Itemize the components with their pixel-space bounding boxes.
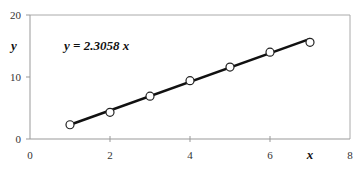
x-tick-label: 4 [187, 149, 193, 161]
y-tick-label: 20 [10, 9, 22, 21]
x-axis-title: x [306, 147, 314, 162]
data-point [146, 92, 154, 100]
x-tick-label: 0 [27, 149, 33, 161]
chart: 0 10 20 0 2 4 6 8 y x y = 2.3058 x [0, 0, 363, 171]
data-point [186, 77, 194, 85]
data-point [306, 38, 314, 46]
data-point [226, 63, 234, 71]
y-tick-label: 10 [10, 71, 22, 83]
data-point [106, 108, 114, 116]
data-point [266, 48, 274, 56]
y-tick-label: 0 [16, 133, 22, 145]
y-ticks: 0 10 20 [10, 9, 30, 145]
x-tick-label: 8 [347, 149, 353, 161]
x-ticks: 0 2 4 6 8 [27, 136, 353, 161]
x-tick-label: 6 [267, 149, 273, 161]
y-axis-title: y [9, 38, 17, 53]
data-point [66, 121, 74, 129]
equation-label: y = 2.3058 x [62, 38, 130, 53]
x-tick-label: 2 [107, 149, 113, 161]
